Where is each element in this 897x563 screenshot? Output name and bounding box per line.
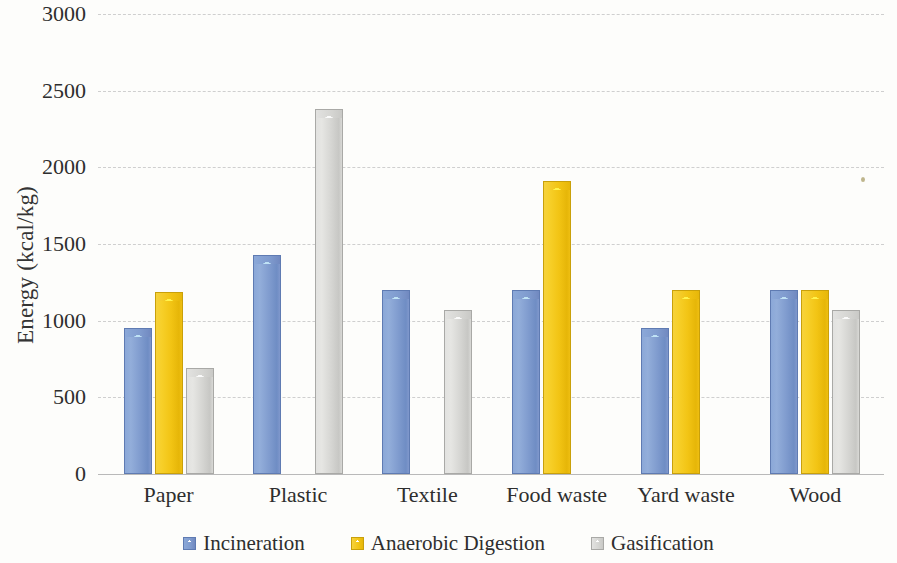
bar (444, 310, 472, 474)
bar-body (672, 299, 700, 474)
legend-item-label: Incineration (203, 531, 304, 556)
x-axis-category-label: Textile (397, 482, 458, 508)
y-axis-tick-label: 1000 (6, 310, 86, 332)
yellow-square-swatch (351, 537, 364, 550)
y-axis-tick-label: 0 (6, 463, 86, 485)
bar-body (186, 377, 214, 474)
bar-body (382, 299, 410, 474)
bar-body (801, 299, 829, 474)
plot-area (98, 14, 884, 474)
bar (186, 368, 214, 474)
blue-square-swatch (183, 537, 196, 550)
bar-body (770, 299, 798, 474)
legend-item[interactable]: Incineration (183, 531, 304, 556)
bar (124, 328, 152, 474)
legend-item-label: Gasification (611, 531, 714, 556)
bar-body (155, 301, 183, 474)
bar-body (543, 190, 571, 474)
bar (832, 310, 860, 474)
x-axis-category-label: Plastic (269, 482, 328, 508)
bar (770, 290, 798, 474)
bar (382, 290, 410, 474)
x-axis-category-label: Paper (144, 482, 194, 508)
bar-body (315, 118, 343, 474)
bar-body (512, 299, 540, 474)
y-axis-tick-label: 1500 (6, 233, 86, 255)
bar-body (444, 319, 472, 474)
bars-layer (98, 14, 884, 474)
legend-item[interactable]: Anaerobic Digestion (351, 531, 545, 556)
legend-item-label: Anaerobic Digestion (371, 531, 545, 556)
scan-artifact-speck (861, 177, 865, 182)
bar-body (641, 337, 669, 474)
y-axis-tick-label: 3000 (6, 3, 86, 25)
bar (253, 255, 281, 474)
bar (801, 290, 829, 474)
bar (512, 290, 540, 474)
x-axis-category-label: Wood (789, 482, 841, 508)
bar-body (124, 337, 152, 474)
x-axis-category-label: Yard waste (637, 482, 734, 508)
bar (672, 290, 700, 474)
x-axis-line (98, 474, 884, 475)
legend-item[interactable]: Gasification (591, 531, 714, 556)
bar-body (832, 319, 860, 474)
bar-chart: Energy (kcal/kg) 30002500200015001000500… (0, 0, 897, 563)
gray-square-swatch (591, 537, 604, 550)
y-axis-tick-label: 2000 (6, 156, 86, 178)
bar (641, 328, 669, 474)
y-axis-tick-label: 2500 (6, 80, 86, 102)
bar (315, 109, 343, 474)
chart-legend: IncinerationAnaerobic DigestionGasificat… (0, 531, 897, 556)
y-axis-tick-label: 500 (6, 386, 86, 408)
bar (543, 181, 571, 474)
x-axis-category-label: Food waste (506, 482, 607, 508)
bar (155, 292, 183, 474)
bar-body (253, 264, 281, 474)
